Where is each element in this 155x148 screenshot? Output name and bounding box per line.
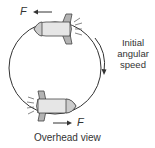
angular-speed-line-3: speed [108,59,155,70]
caption: Overhead view [34,132,101,143]
force-label-top: F [20,5,27,17]
rocket-top-icon [34,14,82,44]
force-arrow-bottom [53,121,72,126]
force-label-bottom: F [77,116,84,128]
rocket-bottom-icon [27,91,76,121]
angular-speed-line-2: angular [108,48,155,59]
force-arrow-top [33,10,52,15]
angular-speed-label: Initial angular speed [108,37,155,70]
angular-speed-line-1: Initial [108,37,155,48]
